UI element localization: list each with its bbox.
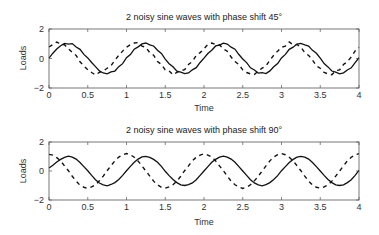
subplot-2-title: 2 noisy sine waves with phase shift 90° [126, 125, 283, 135]
x-tick-label: 2 [201, 90, 206, 100]
x-tick-label: 1.5 [159, 90, 172, 100]
x-tick-label: 2.5 [236, 202, 249, 212]
x-tick-label: 0.5 [81, 202, 94, 212]
subplot-2-lines [49, 154, 359, 189]
x-tick-label: 0 [46, 90, 51, 100]
x-tick-label: 0 [46, 202, 51, 212]
x-tick-label: 1 [124, 202, 129, 212]
x-tick-label: 3.5 [314, 90, 327, 100]
subplot-1-ylabel: Loads [18, 45, 28, 70]
series-line-solid [49, 43, 359, 74]
subplot-1-lines [49, 42, 359, 75]
subplot-1-xlabel: Time [194, 103, 214, 113]
x-tick-label: 0.5 [81, 90, 94, 100]
subplot-2-ticks: 00.511.522.533.54−202 [34, 137, 362, 212]
subplot-2-ylabel: Loads [18, 158, 28, 183]
x-tick-label: 2.5 [236, 90, 249, 100]
x-tick-label: 4 [356, 90, 361, 100]
x-tick-label: 4 [356, 202, 361, 212]
figure: 2 noisy sine waves with phase shift 45° … [0, 0, 379, 235]
y-tick-label: 2 [39, 137, 44, 147]
subplot-2: 2 noisy sine waves with phase shift 90° … [18, 125, 362, 227]
y-tick-label: 2 [39, 24, 44, 34]
subplot-1-ticks: 00.511.522.533.54−202 [34, 24, 362, 100]
y-tick-label: 0 [39, 166, 44, 176]
y-tick-label: −2 [34, 83, 44, 93]
y-tick-label: −2 [34, 195, 44, 205]
subplot-1-title: 2 noisy sine waves with phase shift 45° [126, 12, 283, 22]
series-line-solid [49, 156, 359, 186]
x-tick-label: 1 [124, 90, 129, 100]
subplot-1: 2 noisy sine waves with phase shift 45° … [18, 12, 362, 113]
x-tick-label: 3 [279, 90, 284, 100]
x-tick-label: 1.5 [159, 202, 172, 212]
x-tick-label: 3 [279, 202, 284, 212]
x-tick-label: 3.5 [314, 202, 327, 212]
subplot-2-xlabel: Time [194, 217, 214, 227]
y-tick-label: 0 [39, 54, 44, 64]
x-tick-label: 2 [201, 202, 206, 212]
